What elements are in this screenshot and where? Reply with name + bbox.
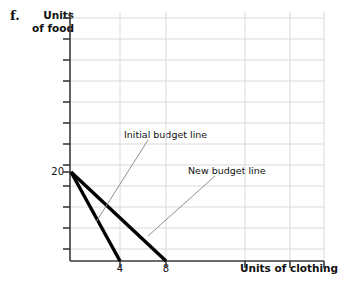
- new-budget-line-curve: [71, 172, 120, 261]
- initial-budget-line-curve: [71, 172, 166, 261]
- y-axis-ticks: [63, 18, 70, 249]
- horizontal-gridlines: [70, 18, 324, 249]
- leader-line-initial-budget: [96, 140, 148, 222]
- plot-area: [0, 0, 345, 292]
- vertical-gridlines: [120, 12, 324, 261]
- x-axis-ticks: [120, 261, 324, 268]
- figure-panel: f. Units of food Units of clothing 20 4 …: [0, 0, 345, 292]
- leader-line-new-budget: [148, 176, 215, 236]
